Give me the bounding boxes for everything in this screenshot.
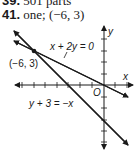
origin-label: O [93,87,101,98]
x-axis [15,82,133,88]
point-label: (−6, 3) [9,58,38,69]
line2-label: y + 3 = −x [28,98,74,109]
intersection-point [32,49,37,54]
line1-label: x + 2y = 0 [49,41,94,52]
y-axis [101,26,107,149]
coordinate-graph: y x O (−6, 3) x + 2y = 0 y + 3 = −x [0,0,138,150]
y-axis-label: y [107,26,114,37]
x-axis-label: x [122,71,129,82]
